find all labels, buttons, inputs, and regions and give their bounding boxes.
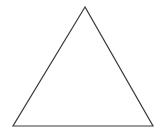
figure-canvas <box>0 0 166 137</box>
canvas-background <box>0 0 166 137</box>
triangle-diagram <box>0 0 166 137</box>
